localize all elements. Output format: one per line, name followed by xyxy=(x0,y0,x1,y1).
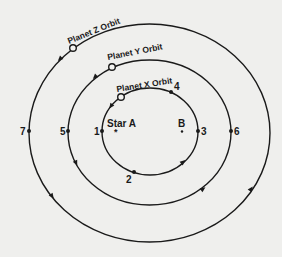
planet-z-marker xyxy=(70,45,77,52)
point-6 xyxy=(229,129,233,133)
planet-y-marker xyxy=(109,64,116,71)
point-1-label: 1 xyxy=(94,126,100,137)
star-b-label: B xyxy=(178,118,185,129)
star-a-label: Star A xyxy=(107,118,136,129)
point-2-label: 2 xyxy=(126,174,132,185)
planet-x-marker xyxy=(118,94,125,101)
point-3 xyxy=(196,129,200,133)
planet-x-orbit-label: Planet X Orbit xyxy=(116,75,173,94)
orbit-diagram: Planet Z Orbit Planet Y Orbit Planet X O… xyxy=(0,0,282,257)
star-b-marker xyxy=(181,130,183,132)
planet-y-orbit-label: Planet Y Orbit xyxy=(106,41,163,62)
point-5 xyxy=(66,129,70,133)
point-5-label: 5 xyxy=(60,126,66,137)
point-2 xyxy=(132,170,136,174)
point-1 xyxy=(100,129,104,133)
point-7 xyxy=(27,129,31,133)
point-7-label: 7 xyxy=(20,126,26,137)
point-6-label: 6 xyxy=(234,126,240,137)
point-3-label: 3 xyxy=(201,126,207,137)
direction-arrow-icon xyxy=(91,74,98,81)
point-4 xyxy=(169,90,173,94)
point-4-label: 4 xyxy=(174,81,180,92)
direction-arrow-icon xyxy=(56,56,63,63)
planet-z-orbit-label: Planet Z Orbit xyxy=(66,16,122,46)
